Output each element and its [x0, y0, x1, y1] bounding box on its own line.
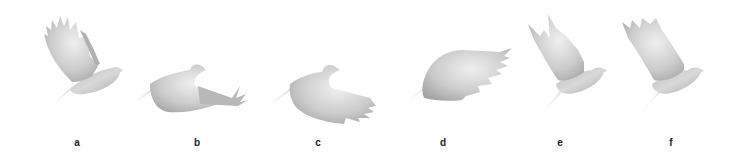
bird-d-icon — [395, 48, 512, 113]
panel-label-e: e — [550, 137, 570, 148]
bird-a-icon — [44, 16, 123, 112]
panel-label-c: c — [308, 137, 328, 148]
panel-label-f: f — [661, 137, 681, 148]
bird-c-icon — [259, 65, 376, 124]
panel-label-b: b — [187, 137, 207, 148]
panel-label-d: d — [433, 137, 453, 148]
birds-canvas — [0, 0, 740, 165]
bird-b-icon — [124, 64, 248, 112]
bird-e-icon — [528, 14, 607, 118]
flight-sequence-figure: a b c d e f — [0, 0, 740, 165]
bird-f-icon — [622, 18, 704, 118]
panel-label-a: a — [67, 137, 87, 148]
